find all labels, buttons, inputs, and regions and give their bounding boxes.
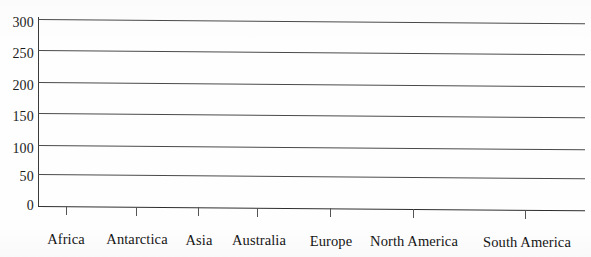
continents-bar-chart: 300 250 200 150 100 50 0 [0,0,591,257]
gridline-300 [38,19,585,24]
x-axis-label-north-america: North America [370,233,458,249]
y-axis-labels: 300 250 200 150 100 50 0 [0,0,34,257]
plot-area [38,14,585,210]
x-axis-tick [66,206,67,215]
y-axis-tick-label: 100 [2,142,34,156]
gridline-50 [38,174,585,179]
y-axis-tick-label: 250 [2,47,34,61]
x-axis-tick [257,208,258,217]
y-axis-tick-label: 50 [2,170,34,184]
y-axis-tick-label: 200 [2,79,34,93]
gridline-150 [38,113,585,118]
chart-screenshot: 300 250 200 150 100 50 0 [0,0,591,257]
x-axis-label-south-america: South America [483,234,571,250]
y-axis-tick-label: 300 [2,16,34,30]
x-axis-tick [136,207,137,216]
x-axis-tick [525,210,526,219]
x-axis-label-africa: Africa [47,231,85,247]
x-axis-label-europe: Europe [310,233,352,249]
gridline-250 [38,50,585,55]
x-axis-line [38,206,585,211]
x-axis-tick [413,209,414,218]
x-axis-label-australia: Australia [232,232,286,248]
x-axis-label-asia: Asia [186,232,213,248]
x-axis-tick [198,207,199,216]
y-axis-tick-label: 150 [2,110,34,124]
gridline-200 [38,82,585,87]
gridline-100 [38,145,585,150]
y-axis-tick-label: 0 [2,199,34,213]
x-axis-tick [330,208,331,217]
x-axis-label-antarctica: Antarctica [106,231,167,247]
